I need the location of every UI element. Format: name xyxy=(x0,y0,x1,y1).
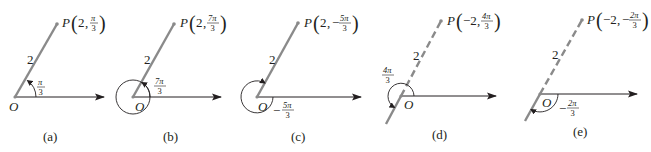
origin-label: O xyxy=(9,99,19,114)
angle-numerator: π xyxy=(38,77,43,87)
svg-text:−: − xyxy=(622,12,629,27)
svg-text:3: 3 xyxy=(92,23,96,33)
svg-text:(: ( xyxy=(71,12,78,35)
angle-arc xyxy=(142,83,150,98)
svg-text:−2: −2 xyxy=(603,12,617,27)
svg-text:−2: −2 xyxy=(463,13,477,28)
svg-text:4π: 4π xyxy=(482,11,491,21)
svg-text:2π: 2π xyxy=(568,98,577,108)
origin-label: O xyxy=(542,95,552,110)
angle-denominator: 3 xyxy=(39,87,43,97)
point-p xyxy=(55,22,59,26)
svg-text:,: , xyxy=(477,13,480,28)
length-label: 2 xyxy=(552,47,559,62)
svg-text:): ) xyxy=(99,12,106,35)
radius-ray xyxy=(133,24,174,97)
svg-text:5π: 5π xyxy=(283,100,292,110)
svg-text:3: 3 xyxy=(343,23,347,33)
svg-text:P: P xyxy=(303,15,312,30)
radius-ray xyxy=(15,24,57,97)
length-label: 2 xyxy=(269,52,276,67)
svg-text:): ) xyxy=(352,12,359,35)
origin-label: O xyxy=(404,97,414,112)
origin-label: O xyxy=(258,99,268,114)
point-label: P ( 2 , π 3 ) xyxy=(61,12,106,35)
svg-text:(: ( xyxy=(596,9,603,32)
svg-text:,: , xyxy=(203,15,206,30)
svg-text:−: − xyxy=(332,15,339,30)
svg-text:3: 3 xyxy=(485,21,489,31)
polar-coordinates-figure: O 2 π 3 P ( 2 , π 3 ) (a) O 2 7π 3 xyxy=(0,0,651,152)
svg-text:5π: 5π xyxy=(340,13,349,23)
svg-text:2: 2 xyxy=(320,15,327,30)
angle-denominator: 3 xyxy=(158,86,162,96)
svg-text:): ) xyxy=(642,9,649,32)
point-label: P ( 2 , 7π 3 ) xyxy=(179,12,227,35)
length-label: 2 xyxy=(413,48,420,63)
point-p xyxy=(172,22,176,26)
panel-b: O 2 7π 3 P ( 2 , 7π 3 ) (b) xyxy=(116,12,227,144)
point-label: P ( 2 , − 5π 3 ) xyxy=(303,12,359,35)
caption: (b) xyxy=(163,129,178,144)
caption: (e) xyxy=(573,124,587,139)
svg-text:(: ( xyxy=(456,10,463,33)
svg-text:(: ( xyxy=(189,12,196,35)
svg-text:2: 2 xyxy=(78,15,85,30)
point-p xyxy=(439,19,443,23)
svg-text:(: ( xyxy=(313,12,320,35)
negative-radius-ray xyxy=(525,94,540,121)
svg-text:): ) xyxy=(494,10,501,33)
svg-text:P: P xyxy=(61,15,70,30)
caption: (c) xyxy=(291,129,305,144)
point-p xyxy=(580,18,584,22)
angle-label: − 2π 3 xyxy=(559,98,579,118)
svg-text:P: P xyxy=(586,12,595,27)
origin-label: O xyxy=(135,99,145,114)
angle-numerator: 7π xyxy=(155,76,164,86)
length-label: 2 xyxy=(27,52,34,67)
svg-text:3: 3 xyxy=(571,108,575,118)
point-label: P ( −2 , − 2π 3 ) xyxy=(586,9,649,32)
angle-denominator: 3 xyxy=(386,75,390,85)
svg-text:3: 3 xyxy=(286,110,290,120)
svg-text:−: − xyxy=(559,101,566,116)
origin-point xyxy=(399,94,402,97)
length-label: 2 xyxy=(144,52,151,67)
radius-ray xyxy=(257,23,298,97)
svg-text:,: , xyxy=(85,15,88,30)
svg-text:P: P xyxy=(446,13,455,28)
svg-text:π: π xyxy=(91,13,96,23)
svg-text:,: , xyxy=(617,12,620,27)
svg-text:3: 3 xyxy=(211,23,215,33)
svg-text:P: P xyxy=(179,15,188,30)
panel-e: O 2 − 2π 3 P ( −2 , − 2π 3 ) (e) xyxy=(525,9,649,139)
point-label: P ( −2 , 4π 3 ) xyxy=(446,10,501,33)
svg-text:7π: 7π xyxy=(208,13,217,23)
point-p xyxy=(296,21,300,25)
panel-a: O 2 π 3 P ( 2 , π 3 ) (a) xyxy=(9,12,106,144)
angle-arc xyxy=(28,81,37,98)
caption: (d) xyxy=(432,127,447,142)
svg-text:−: − xyxy=(273,103,280,118)
svg-text:,: , xyxy=(327,15,330,30)
svg-text:): ) xyxy=(220,12,227,35)
caption: (a) xyxy=(43,129,57,144)
panel-c: O 2 − 5π 3 P ( 2 , − 5π 3 ) (c) xyxy=(241,12,361,144)
svg-text:2π: 2π xyxy=(630,10,639,20)
svg-text:3: 3 xyxy=(633,20,637,30)
panel-d: O 2 4π 3 P ( −2 , 4π 3 ) (d) xyxy=(382,10,501,142)
svg-text:2: 2 xyxy=(196,15,203,30)
angle-label: − 5π 3 xyxy=(273,100,294,120)
radius-ray-dashed xyxy=(540,20,582,94)
angle-numerator: 4π xyxy=(383,65,392,75)
